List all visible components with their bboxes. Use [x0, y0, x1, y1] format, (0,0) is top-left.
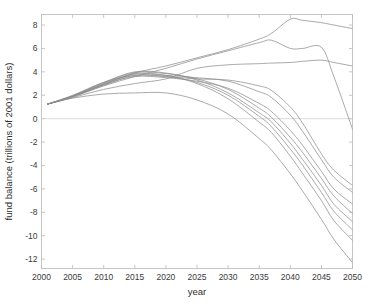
- x-tick-label: 2040: [281, 272, 300, 282]
- data-series-group: [48, 18, 353, 262]
- x-tick-labels: 2000200520102015202020252030203520402045…: [32, 272, 362, 282]
- x-tick-label: 2030: [219, 272, 238, 282]
- tick-marks: [42, 15, 353, 269]
- y-tick-labels: 86420-2-4-6-8-10-12: [25, 20, 38, 264]
- series-line: [48, 71, 353, 222]
- y-tick-label: 6: [33, 43, 38, 53]
- y-axis-title: fund balance (trillions of 2001 dollars): [3, 63, 14, 221]
- plot-box: [42, 15, 353, 269]
- x-tick-label: 2035: [250, 272, 269, 282]
- y-tick-label: 2: [33, 90, 38, 100]
- chart-figure: 2000200520102015202020252030203520402045…: [0, 0, 370, 306]
- x-tick-label: 2020: [156, 272, 175, 282]
- series-line: [48, 72, 353, 214]
- series-line: [48, 75, 353, 230]
- y-tick-label: -8: [30, 207, 38, 217]
- x-tick-label: 2000: [32, 272, 51, 282]
- series-clip-group: [48, 18, 353, 262]
- y-tick-label: -6: [30, 184, 38, 194]
- axis-frame: [42, 15, 353, 269]
- x-tick-label: 2005: [63, 272, 82, 282]
- y-tick-label: -10: [25, 231, 38, 241]
- x-tick-label: 2015: [125, 272, 144, 282]
- y-tick-label: -2: [30, 137, 38, 147]
- series-line: [48, 73, 353, 240]
- series-line: [48, 74, 353, 193]
- y-tick-label: -12: [25, 254, 38, 264]
- x-tick-label: 2050: [343, 272, 362, 282]
- line-chart-canvas: 2000200520102015202020252030203520402045…: [0, 0, 370, 306]
- x-axis-title: year: [188, 286, 206, 297]
- series-line: [48, 92, 353, 262]
- x-tick-label: 2045: [312, 272, 331, 282]
- y-tick-label: 0: [33, 114, 38, 124]
- y-tick-label: -4: [30, 160, 38, 170]
- x-tick-label: 2025: [188, 272, 207, 282]
- y-tick-label: 8: [33, 20, 38, 30]
- y-tick-label: 4: [33, 67, 38, 77]
- x-tick-label: 2010: [94, 272, 113, 282]
